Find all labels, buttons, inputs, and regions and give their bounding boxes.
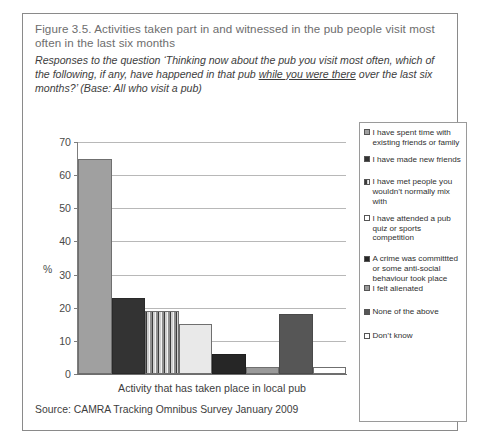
legend-item[interactable]: None of the above [364,307,462,317]
legend-item[interactable]: A crime was committted or some anti-soci… [364,254,462,283]
legend-item-label: A crime was committted or some anti-soci… [373,254,463,283]
bar [145,311,179,374]
y-tick-label: 50 [59,202,71,214]
legend-item-label: I have attended a pub quiz or sports com… [373,214,463,243]
subtitle-underlined: while you were there [259,68,356,80]
y-tick-label: 60 [59,169,71,181]
legend-item-label: I have made new friends [373,155,463,165]
bar-series [78,142,346,374]
legend-item[interactable]: I have attended a pub quiz or sports com… [364,214,462,243]
legend-swatch-icon [364,179,370,185]
y-tick-label: 30 [59,269,71,281]
legend-item[interactable]: I have made new friends [364,155,462,165]
chart-legend: I have spent time with existing friends … [359,122,467,422]
legend-item-label: Don’t know [373,331,463,341]
figure-frame: Figure 3.5. Activities taken part in and… [22,13,458,431]
legend-item[interactable]: I have met people you wouldn’t normally … [364,177,462,206]
y-tick-label: 40 [59,235,71,247]
legend-swatch-icon [364,333,370,339]
legend-item-label: None of the above [373,307,463,317]
legend-item-label: I felt alienated [373,284,463,294]
figure-title: Figure 3.5. Activities taken part in and… [35,22,443,51]
legend-swatch-icon [364,285,370,291]
bar [78,159,112,374]
legend-swatch-icon [364,309,370,315]
x-axis-title: Activity that has taken place in local p… [78,382,346,394]
legend-item[interactable]: I felt alienated [364,284,462,294]
y-axis-title: % [43,264,52,275]
bar [179,324,213,374]
bar [212,354,246,374]
bar [112,298,146,374]
figure-caption: Figure 3.5. Activities taken part in and… [35,22,443,95]
legend-swatch-icon [364,156,370,162]
legend-item-label: I have met people you wouldn’t normally … [373,177,463,206]
bar [279,314,313,374]
y-tick-label: 0 [65,368,71,380]
figure-subtitle: Responses to the question ‘Thinking now … [35,53,443,95]
legend-swatch-icon [364,215,370,221]
legend-item-label: I have spent time with existing friends … [373,128,463,148]
legend-swatch-icon [364,129,370,135]
plot-area: 010203040506070 [78,142,346,374]
y-tick-label: 10 [59,335,71,347]
legend-swatch-icon [364,256,370,262]
bar [246,367,280,374]
bar [313,367,347,374]
y-tick-label: 70 [59,136,71,148]
legend-item[interactable]: I have spent time with existing friends … [364,128,462,148]
source-note: Source: CAMRA Tracking Omnibus Survey Ja… [35,404,298,415]
legend-item[interactable]: Don’t know [364,331,462,341]
y-tick-label: 20 [59,302,71,314]
